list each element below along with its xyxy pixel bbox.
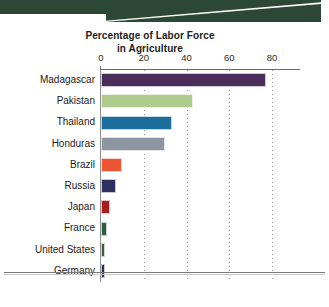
bar-row: Brazil bbox=[101, 155, 272, 176]
x-tick-label-40: 40 bbox=[181, 52, 192, 63]
bar-row: Thailand bbox=[101, 112, 272, 133]
category-label-japan: Japan bbox=[68, 200, 95, 214]
category-label-honduras: Honduras bbox=[52, 137, 95, 151]
gridline-80 bbox=[272, 70, 273, 282]
chart-title: Percentage of Labor Force in Agriculture bbox=[0, 30, 300, 55]
banner-notch bbox=[0, 14, 106, 22]
category-label-thailand: Thailand bbox=[57, 115, 95, 129]
banner-diagonal-sliver bbox=[105, 0, 321, 22]
bar-chart: Percentage of Labor Force in Agriculture… bbox=[0, 22, 329, 307]
decorative-green-banner bbox=[0, 0, 321, 22]
x-tick-label-60: 60 bbox=[224, 52, 235, 63]
bar-russia bbox=[101, 179, 116, 193]
bar-united-states bbox=[101, 243, 105, 257]
bar-pakistan bbox=[101, 94, 193, 108]
category-label-france: France bbox=[64, 221, 95, 235]
plot-area: 020406080 MadagascarPakistanThailandHond… bbox=[101, 70, 272, 282]
bar-row: Japan bbox=[101, 197, 272, 218]
bar-row: United States bbox=[101, 240, 272, 261]
bar-row: Madagascar bbox=[101, 70, 272, 91]
category-label-united-states: United States bbox=[35, 243, 95, 257]
x-tick-label-80: 80 bbox=[267, 52, 278, 63]
chart-title-line-2: in Agriculture bbox=[0, 43, 300, 56]
bar-honduras bbox=[101, 137, 165, 151]
bar-row: Russia bbox=[101, 176, 272, 197]
bar-madagascar bbox=[101, 73, 266, 87]
bar-brazil bbox=[101, 158, 122, 172]
bar-row: Honduras bbox=[101, 134, 272, 155]
category-label-pakistan: Pakistan bbox=[57, 94, 95, 108]
category-label-brazil: Brazil bbox=[70, 158, 95, 172]
footer-divider bbox=[4, 272, 325, 273]
footer-divider-shadow bbox=[4, 274, 325, 275]
bar-thailand bbox=[101, 116, 172, 130]
category-label-madagascar: Madagascar bbox=[40, 73, 95, 87]
chart-title-line-1: Percentage of Labor Force bbox=[0, 30, 300, 43]
category-label-russia: Russia bbox=[64, 179, 95, 193]
bar-row: France bbox=[101, 218, 272, 239]
bar-row: Pakistan bbox=[101, 91, 272, 112]
x-tick-label-20: 20 bbox=[138, 52, 149, 63]
bar-germany bbox=[101, 264, 105, 278]
bar-japan bbox=[101, 200, 110, 214]
bar-france bbox=[101, 222, 107, 236]
x-tick-label-0: 0 bbox=[98, 52, 103, 63]
category-label-germany: Germany bbox=[54, 264, 95, 278]
